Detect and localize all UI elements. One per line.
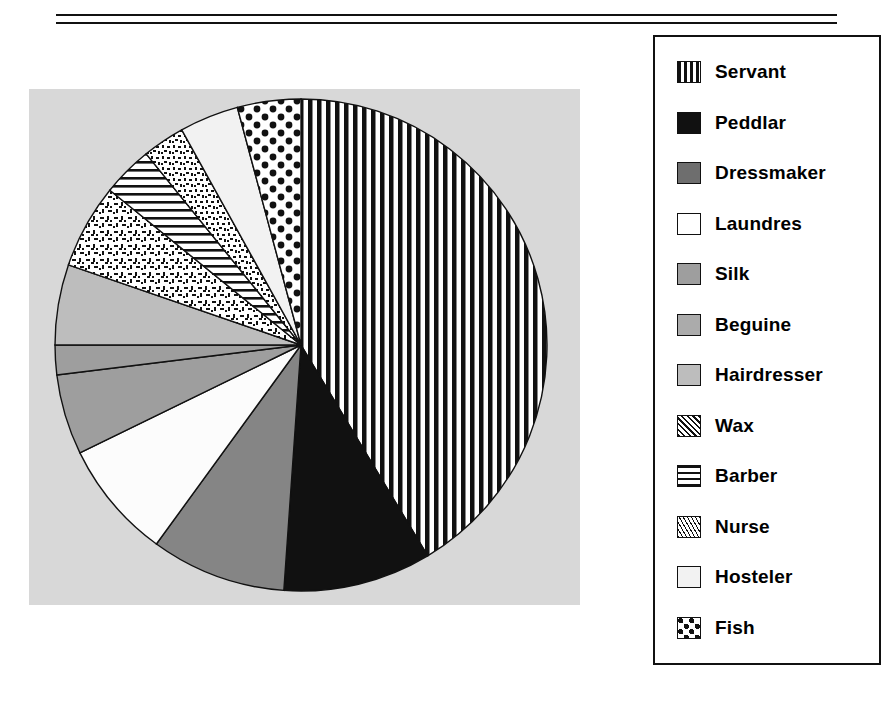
legend-item-label: Nurse — [715, 516, 770, 538]
legend-item-label: Laundres — [715, 213, 802, 235]
legend-list: ServantPeddlarDressmakerLaundresSilkBegu… — [655, 37, 879, 663]
legend-swatch-dark-gray-icon — [677, 162, 701, 184]
legend-item-fish[interactable]: Fish — [677, 606, 879, 650]
legend-item-label: Silk — [715, 263, 750, 285]
legend-swatch-coarse-speckle-icon — [677, 415, 701, 437]
legend-item-beguine[interactable]: Beguine — [677, 303, 879, 347]
legend-swatch-fine-speckle-icon — [677, 516, 701, 538]
legend-item-label: Hosteler — [715, 566, 793, 588]
legend-swatch-white-icon — [677, 213, 701, 235]
legend-item-barber[interactable]: Barber — [677, 454, 879, 498]
legend-item-label: Servant — [715, 61, 786, 83]
legend-swatch-near-white-icon — [677, 566, 701, 588]
legend: ServantPeddlarDressmakerLaundresSilkBegu… — [653, 35, 881, 665]
legend-swatch-medium-gray-icon — [677, 263, 701, 285]
legend-item-laundres[interactable]: Laundres — [677, 202, 879, 246]
legend-item-label: Fish — [715, 617, 755, 639]
legend-item-peddlar[interactable]: Peddlar — [677, 101, 879, 145]
legend-item-wax[interactable]: Wax — [677, 404, 879, 448]
legend-item-label: Dressmaker — [715, 162, 826, 184]
legend-item-label: Barber — [715, 465, 777, 487]
figure-canvas: ServantPeddlarDressmakerLaundresSilkBegu… — [0, 0, 893, 708]
legend-item-label: Wax — [715, 415, 754, 437]
legend-item-nurse[interactable]: Nurse — [677, 505, 879, 549]
legend-item-dressmaker[interactable]: Dressmaker — [677, 151, 879, 195]
legend-item-hairdresser[interactable]: Hairdresser — [677, 353, 879, 397]
pie-chart — [29, 89, 580, 605]
legend-item-label: Beguine — [715, 314, 791, 336]
legend-swatch-horizontal-lines-icon — [677, 465, 701, 487]
legend-item-label: Hairdresser — [715, 364, 823, 386]
top-rule — [56, 14, 837, 24]
legend-swatch-solid-black-icon — [677, 112, 701, 134]
legend-swatch-light-gray-icon — [677, 364, 701, 386]
legend-item-hosteler[interactable]: Hosteler — [677, 555, 879, 599]
legend-swatch-gray-icon — [677, 314, 701, 336]
legend-swatch-vertical-stripes-icon — [677, 61, 701, 83]
legend-item-silk[interactable]: Silk — [677, 252, 879, 296]
legend-item-label: Peddlar — [715, 112, 786, 134]
legend-item-servant[interactable]: Servant — [677, 50, 879, 94]
legend-swatch-checkerboard-dots-icon — [677, 617, 701, 639]
